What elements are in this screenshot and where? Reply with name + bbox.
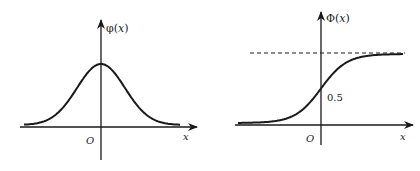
cdf-origin-label: O	[306, 133, 314, 144]
pdf-x-label: x	[183, 131, 189, 142]
cdf-x-label: x	[400, 131, 406, 142]
pdf-plot: φ(x) O x	[20, 20, 197, 160]
cdf-half-label: 0.5	[327, 92, 343, 103]
cdf-y-label: Φ(x)	[326, 12, 350, 25]
cdf-plot: Φ(x) 0.5 O x	[235, 12, 413, 145]
pdf-y-label: φ(x)	[106, 22, 129, 35]
normal-distribution-figure: φ(x) O x Φ(x) 0.5 O x	[0, 0, 420, 171]
pdf-origin-label: O	[86, 135, 94, 146]
pdf-curve	[24, 64, 180, 125]
